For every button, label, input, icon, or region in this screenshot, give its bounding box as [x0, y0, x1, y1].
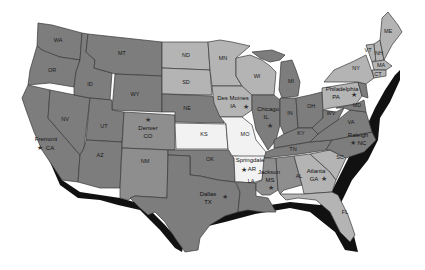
- state-ny[interactable]: [324, 55, 374, 84]
- city-state: GA: [310, 176, 319, 182]
- star-icon: ★: [351, 91, 357, 98]
- label-wv: WV: [327, 110, 336, 116]
- label-oh: OH: [307, 103, 315, 109]
- label-mo: MO: [241, 131, 251, 137]
- city-name: Denver: [138, 125, 157, 131]
- city-state: PA: [332, 94, 340, 100]
- label-tn: TN: [289, 146, 296, 152]
- label-in: IN: [287, 110, 293, 116]
- label-ct: CT: [374, 71, 382, 77]
- city-name: Chicago: [257, 106, 280, 112]
- star-icon: ★: [241, 166, 247, 173]
- star-icon: ★: [268, 184, 274, 191]
- star-icon: ★: [243, 103, 249, 110]
- label-ut: UT: [100, 123, 108, 129]
- city-name: Jackson: [258, 169, 280, 175]
- label-ky: KY: [297, 130, 305, 136]
- star-icon: ★: [350, 139, 356, 146]
- label-sc: SC: [336, 154, 344, 160]
- label-ma: MA: [377, 62, 386, 68]
- star-icon: ★: [222, 193, 228, 200]
- label-fl: FL: [342, 209, 348, 215]
- city-name: Fremont: [35, 136, 58, 142]
- star-icon: ★: [37, 144, 43, 151]
- label-nm: NM: [141, 158, 150, 164]
- city-name: Dallas: [200, 191, 217, 197]
- star-icon: ★: [145, 116, 151, 123]
- label-id: ID: [87, 81, 93, 87]
- label-mi: MI: [288, 78, 295, 84]
- city-name: Springdale: [236, 157, 265, 163]
- label-me: ME: [384, 28, 393, 34]
- label-sd: SD: [182, 79, 190, 85]
- label-nd: ND: [182, 52, 190, 58]
- city-name: Atlanta: [307, 168, 326, 174]
- label-wy: WY: [131, 91, 140, 97]
- state-me[interactable]: [380, 12, 402, 60]
- city-state: NC: [358, 140, 367, 146]
- state-nm[interactable]: [120, 148, 168, 200]
- city-state: CA: [46, 145, 54, 151]
- label-nh: NH: [375, 50, 383, 56]
- star-icon: ★: [267, 122, 273, 129]
- label-al: AL: [296, 173, 303, 179]
- state-az[interactable]: [78, 140, 122, 188]
- label-nv: NV: [61, 116, 69, 122]
- city-state: CO: [144, 133, 153, 139]
- label-md: MD: [353, 102, 362, 108]
- label-va: VA: [348, 119, 355, 125]
- label-la: LA: [248, 178, 255, 184]
- label-ks: KS: [200, 131, 208, 137]
- state-ia[interactable]: [212, 86, 252, 117]
- city-name: Des Moines: [217, 95, 249, 101]
- label-wi: WI: [254, 73, 261, 79]
- label-mn: MN: [219, 55, 228, 61]
- state-in[interactable]: [280, 98, 298, 134]
- label-or: OR: [48, 67, 56, 73]
- city-state: MS: [266, 177, 275, 183]
- label-vt: VT: [364, 47, 372, 53]
- star-icon: ★: [321, 175, 327, 182]
- states: [22, 12, 402, 252]
- city-state: TX: [204, 199, 212, 205]
- label-ny: NY: [352, 65, 360, 71]
- label-wa: WA: [54, 37, 63, 43]
- label-ok: OK: [206, 156, 214, 162]
- us-map: WA OR ID MT WY NV UT AZ NM ND SD NE KS O…: [0, 0, 425, 270]
- city-state: IL: [263, 114, 269, 120]
- city-state: AR: [248, 166, 257, 172]
- city-state: IA: [230, 103, 236, 109]
- label-ne: NE: [183, 105, 191, 111]
- label-mt: MT: [118, 50, 127, 56]
- city-name: Raleigh: [348, 132, 368, 138]
- label-az: AZ: [96, 152, 104, 158]
